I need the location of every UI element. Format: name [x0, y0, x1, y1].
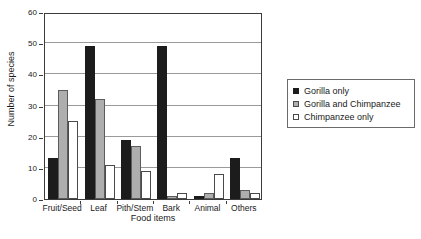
bar — [58, 90, 68, 199]
gray-square-icon — [293, 101, 299, 107]
bar — [141, 171, 151, 199]
y-axis-tick-label: 60 — [28, 9, 37, 17]
legend-item: Chimpanzee only — [293, 110, 410, 123]
bar — [121, 140, 131, 199]
y-axis-tick-mark — [39, 169, 43, 170]
bar — [230, 158, 240, 199]
y-axis-title: Number of species — [6, 29, 16, 149]
legend-item-label: Gorilla only — [304, 86, 349, 96]
x-axis-tick-label: Fruit/Seed — [43, 203, 82, 213]
bar — [95, 99, 105, 199]
y-axis-tick-label: 10 — [28, 165, 37, 173]
legend-item-label: Chimpanzee only — [304, 112, 374, 122]
x-axis-tick-label: Animal — [195, 203, 221, 213]
x-axis-tick-label: Leaf — [90, 203, 107, 213]
white-square-icon — [293, 114, 299, 120]
bar — [240, 190, 250, 199]
bar-chart: 0102030405060 Number of species Fruit/Se… — [0, 0, 421, 239]
bar — [68, 121, 78, 199]
legend-item-label: Gorilla and Chimpanzee — [304, 99, 401, 109]
x-axis-tick-mark — [117, 201, 118, 204]
y-axis-tick-mark — [39, 200, 43, 201]
bar — [105, 165, 115, 199]
y-axis-tick-label: 50 — [28, 40, 37, 48]
y-axis-tick-mark — [39, 13, 43, 14]
bar — [157, 46, 167, 199]
y-axis-tick-label: 40 — [28, 71, 37, 79]
y-axis-tick-mark — [39, 75, 43, 76]
bar — [250, 193, 260, 199]
x-axis-tick-label: Bark — [162, 203, 179, 213]
bar — [194, 196, 204, 199]
black-square-icon — [293, 88, 299, 94]
x-axis-tick-mark — [153, 201, 154, 204]
bar — [48, 158, 58, 199]
plot-area — [44, 13, 262, 200]
legend-item: Gorilla and Chimpanzee — [293, 97, 410, 110]
gridline — [45, 42, 261, 43]
y-axis-tick-mark — [39, 138, 43, 139]
y-axis-tick-label: 30 — [28, 103, 37, 111]
x-axis-tick-label: Pith/Stem — [116, 203, 153, 213]
x-axis-tick-label: Others — [231, 203, 257, 213]
bar — [131, 146, 141, 199]
y-axis-tick-mark — [39, 44, 43, 45]
bar — [204, 193, 214, 199]
bar — [214, 174, 224, 199]
y-axis-tick-label: 0 — [33, 196, 37, 204]
chart-legend: Gorilla onlyGorilla and ChimpanzeeChimpa… — [287, 79, 415, 128]
x-axis-title: Food items — [44, 213, 262, 223]
x-axis-tick-mark — [189, 201, 190, 204]
bar — [177, 193, 187, 199]
bar — [167, 196, 177, 199]
y-axis-tick-mark — [39, 107, 43, 108]
y-axis-tick-label: 20 — [28, 134, 37, 142]
gridline — [45, 105, 261, 106]
legend-item: Gorilla only — [293, 84, 410, 97]
x-axis-tick-mark — [80, 201, 81, 204]
gridline — [45, 73, 261, 74]
x-axis-tick-mark — [226, 201, 227, 204]
bar — [85, 46, 95, 199]
